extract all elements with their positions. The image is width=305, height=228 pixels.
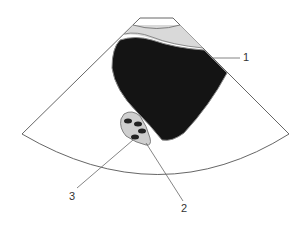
label-1: 1 [243,52,249,63]
dot-1 [124,119,132,124]
label-3: 3 [69,191,75,202]
ultrasound-fan-diagram [0,0,305,228]
dot-4 [131,135,139,140]
label-2: 2 [181,203,187,214]
dot-3 [138,129,146,134]
dot-2 [134,122,142,127]
